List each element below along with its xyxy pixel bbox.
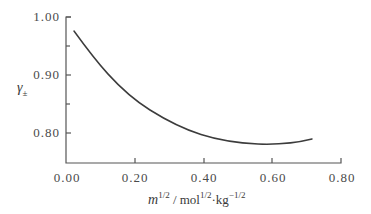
x-tick-label: 0.00 (54, 170, 81, 185)
x-axis-unit1: / mol (170, 192, 201, 207)
x-axis-exp3: −1/2 (229, 190, 246, 200)
x-axis-m: m (148, 192, 158, 207)
gamma-curve (74, 31, 312, 144)
x-tick-label: 0.60 (260, 170, 287, 185)
activity-coefficient-chart: 1.00 0.90 0.80 0.00 0.20 0.40 0.60 0.80 … (0, 0, 371, 214)
x-tick-label: 0.20 (122, 170, 149, 185)
x-axis-title: m1/2 / mol1/2·kg−1/2 (148, 190, 245, 207)
x-tick-label: 0.40 (191, 170, 218, 185)
y-tick-label: 0.80 (33, 125, 60, 140)
y-tick-label: 0.90 (33, 67, 60, 82)
x-tick-label: 0.80 (329, 170, 356, 185)
x-axis-exp1: 1/2 (158, 190, 170, 200)
y-axis-subscript: ± (23, 88, 28, 98)
x-tick-labels: 0.00 0.20 0.40 0.60 0.80 (54, 170, 356, 185)
y-tick-labels: 1.00 0.90 0.80 (33, 9, 60, 140)
y-axis-title: γ± (17, 80, 28, 98)
x-axis-unit2: ·kg (212, 192, 230, 207)
x-axis-exp2: 1/2 (200, 190, 212, 200)
y-tick-label: 1.00 (33, 9, 60, 24)
